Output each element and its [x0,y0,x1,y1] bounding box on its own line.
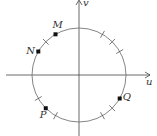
point-q-label: Q [123,91,131,102]
point-q-marker [118,97,122,101]
point-p-label: P [39,109,47,120]
point-m-label: M [52,19,64,30]
tick-mark [54,112,58,119]
point-m-marker [54,32,58,36]
axes [6,0,150,136]
point-n-label: N [25,45,36,56]
tick-mark [101,31,105,38]
tick-mark [35,97,42,101]
unit-circle-diagram: u v MNPQ [0,0,157,136]
tick-mark [101,112,105,119]
point-n-marker [36,50,40,54]
tick-mark [116,50,123,54]
v-axis-label: v [83,0,89,8]
u-axis-label: u [146,76,152,87]
